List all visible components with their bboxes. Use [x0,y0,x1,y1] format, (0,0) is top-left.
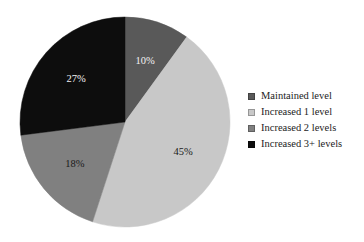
legend-swatch-icon [248,109,255,116]
legend-swatch-icon [248,125,255,132]
legend-item-label: Increased 2 levels [261,122,336,134]
pie-slice-group [20,17,230,227]
pie-slice-label: 10% [135,55,155,66]
pie-slice-label: 27% [67,73,87,84]
legend-item-label: Maintained level [261,90,332,102]
legend-item[interactable]: Increased 2 levels [248,120,364,136]
pie-chart-figure: 10%45%18%27% Maintained levelIncreased 1… [0,0,364,242]
pie-slice-label: 18% [65,158,85,169]
legend-item[interactable]: Increased 1 level [248,104,364,120]
legend-item[interactable]: Increased 3+ levels [248,136,364,152]
legend-item-label: Increased 3+ levels [261,138,342,150]
chart-legend: Maintained levelIncreased 1 levelIncreas… [248,88,364,152]
legend-swatch-icon [248,141,255,148]
legend-item[interactable]: Maintained level [248,88,364,104]
pie-slice-label: 45% [173,146,193,157]
legend-swatch-icon [248,93,255,100]
legend-item-label: Increased 1 level [261,106,332,118]
